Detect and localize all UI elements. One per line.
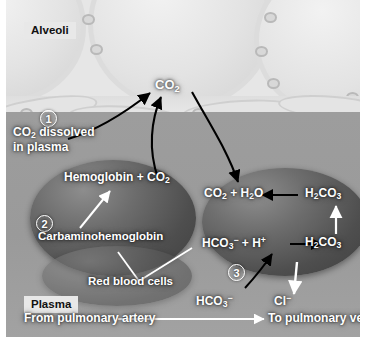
label-h2co3-bottom: H2CO3: [305, 236, 341, 251]
h2co3-bottom-pre: H: [305, 235, 314, 249]
label-h2co3-top: H2CO3: [305, 187, 341, 202]
co2-dissolved-line2: in plasma: [13, 140, 68, 154]
arrow-hco3-into-rbc: [245, 254, 272, 288]
label-co2-plus-h2o: CO2 + H2O: [204, 187, 263, 202]
label-co2-alveolar-text: CO: [155, 77, 175, 92]
hco3-plasma-pre: HCO: [196, 294, 223, 308]
co2-dissolved-line1-rest: dissolved: [36, 125, 95, 139]
label-red-blood-cells: Red blood cells: [88, 275, 173, 288]
h2co3-top-sub2: 3: [336, 191, 341, 201]
cl-sup: −: [286, 293, 291, 303]
hco3-plasma-sup: −: [227, 293, 232, 303]
cl-pre: Cl: [274, 294, 286, 308]
h2co3-bottom-sub2: 3: [336, 240, 341, 250]
label-co2-alveolar: CO2: [155, 78, 180, 94]
label-from-pulmonary-artery: From pulmonary artery: [24, 312, 155, 326]
label-chloride-plasma: Cl−: [274, 294, 291, 308]
co2-dissolved-line1-pre: CO: [13, 125, 31, 139]
label-co2-dissolved-in-plasma: CO2 dissolved in plasma: [13, 126, 94, 155]
hemoglobin-co2-pre: Hemoglobin + CO: [64, 170, 165, 184]
co2-h2o-b: O: [254, 186, 263, 200]
illustration-plate: Alveoli Plasma 1 2 3 CO2 CO2 dissolved i…: [6, 0, 360, 337]
co2-h2o-a: CO: [204, 186, 222, 200]
arrow-hemoglobin-co2-to-alveolus: [152, 97, 161, 178]
figure-root: Alveoli Plasma 1 2 3 CO2 CO2 dissolved i…: [0, 0, 366, 351]
arrow-chloride-shift-out: [294, 262, 297, 294]
h2co3-top-mid: CO: [318, 186, 336, 200]
hco3-h-mid: + H: [239, 236, 261, 250]
co2-h2o-mid: + H: [227, 186, 249, 200]
hemoglobin-co2-sub: 2: [165, 175, 170, 185]
label-to-pulmonary-vein: To pulmonary vein: [268, 312, 360, 326]
arrow-alveolus-to-rbc-co2: [192, 92, 238, 182]
label-hco3-plus-h: HCO3− + H+: [202, 236, 266, 252]
label-co2-alveolar-sub: 2: [175, 84, 180, 94]
label-hemoglobin-co2: Hemoglobin + CO2: [64, 171, 170, 186]
label-hco3-plasma: HCO3−: [196, 294, 233, 310]
arrow-layer: [6, 0, 360, 337]
leader-carbaminohemoglobin: [80, 191, 110, 228]
hco3-h-pre: HCO: [202, 236, 229, 250]
label-carbaminohemoglobin: Carbaminohemoglobin: [38, 230, 163, 243]
h2co3-bottom-mid: CO: [318, 235, 336, 249]
h2co3-top-pre: H: [305, 186, 314, 200]
hco3-h-sup2: +: [261, 235, 266, 245]
region-label-alveoli: Alveoli: [24, 22, 76, 39]
step-number-3: 3: [228, 264, 245, 281]
